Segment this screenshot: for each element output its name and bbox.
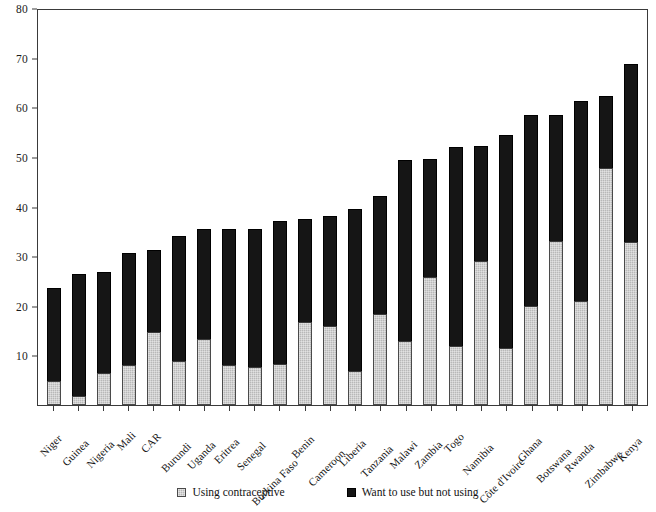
bar-segment-want-to-use-but-not-using[interactable] — [72, 274, 86, 396]
bar-segment-using-contraceptive[interactable] — [348, 371, 362, 405]
bar-segment-want-to-use-but-not-using[interactable] — [474, 146, 488, 261]
bar-slot-malawi[interactable] — [393, 10, 418, 405]
stacked-bar[interactable] — [624, 64, 638, 405]
bar-slot-kenya[interactable] — [619, 10, 644, 405]
chart-page: 1020304050607080 NigerGuineaNigeriaMaliC… — [0, 0, 656, 512]
stacked-bar[interactable] — [499, 135, 513, 405]
stacked-bar[interactable] — [423, 159, 437, 405]
bar-segment-want-to-use-but-not-using[interactable] — [97, 272, 111, 373]
bar-segment-using-contraceptive[interactable] — [172, 361, 186, 405]
stacked-bar[interactable] — [273, 221, 287, 405]
bar-slot-nigeria[interactable] — [91, 10, 116, 405]
stacked-bar[interactable] — [47, 288, 61, 405]
stacked-bar[interactable] — [373, 196, 387, 405]
bar-slot-tanzania[interactable] — [368, 10, 393, 405]
bar-segment-using-contraceptive[interactable] — [248, 367, 262, 405]
bar-slot-zambia[interactable] — [418, 10, 443, 405]
bar-segment-using-contraceptive[interactable] — [323, 326, 337, 405]
bar-segment-want-to-use-but-not-using[interactable] — [398, 160, 412, 341]
stacked-bar[interactable] — [599, 96, 613, 405]
bar-segment-want-to-use-but-not-using[interactable] — [47, 288, 61, 381]
bar-segment-using-contraceptive[interactable] — [97, 373, 111, 405]
bar-segment-want-to-use-but-not-using[interactable] — [348, 209, 362, 370]
bar-segment-using-contraceptive[interactable] — [373, 314, 387, 405]
bar-segment-using-contraceptive[interactable] — [624, 242, 638, 405]
bar-segment-want-to-use-but-not-using[interactable] — [624, 64, 638, 242]
bar-slot-botswana[interactable] — [544, 10, 569, 405]
stacked-bar[interactable] — [348, 209, 362, 405]
bar-segment-using-contraceptive[interactable] — [47, 381, 61, 405]
bar-slot-guinea[interactable] — [66, 10, 91, 405]
bar-slot-cameroon[interactable] — [317, 10, 342, 405]
bar-slot-eritrea[interactable] — [217, 10, 242, 405]
stacked-bar[interactable] — [72, 274, 86, 405]
bar-slot-burkina-faso[interactable] — [267, 10, 292, 405]
bar-segment-using-contraceptive[interactable] — [423, 277, 437, 405]
bar-segment-using-contraceptive[interactable] — [524, 306, 538, 405]
bar-segment-want-to-use-but-not-using[interactable] — [323, 216, 337, 325]
bar-segment-want-to-use-but-not-using[interactable] — [172, 236, 186, 361]
bar-segment-want-to-use-but-not-using[interactable] — [147, 250, 161, 331]
bar-slot-mali[interactable] — [116, 10, 141, 405]
stacked-bar[interactable] — [474, 146, 488, 405]
bar-slot-liberia[interactable] — [343, 10, 368, 405]
bar-segment-using-contraceptive[interactable] — [273, 364, 287, 405]
bar-segment-want-to-use-but-not-using[interactable] — [273, 221, 287, 364]
stacked-bar[interactable] — [398, 160, 412, 405]
stacked-bar[interactable] — [222, 229, 236, 405]
bar-segment-using-contraceptive[interactable] — [449, 346, 463, 405]
bar-segment-using-contraceptive[interactable] — [298, 322, 312, 405]
stacked-bar[interactable] — [549, 115, 563, 405]
bar-segment-want-to-use-but-not-using[interactable] — [197, 229, 211, 338]
stacked-bar[interactable] — [248, 229, 262, 405]
bar-segment-want-to-use-but-not-using[interactable] — [298, 219, 312, 321]
bar-segment-using-contraceptive[interactable] — [197, 339, 211, 405]
bar-segment-want-to-use-but-not-using[interactable] — [248, 229, 262, 367]
stacked-bar[interactable] — [323, 216, 337, 405]
bar-slot-rwanda[interactable] — [569, 10, 594, 405]
stacked-bar[interactable] — [574, 101, 588, 405]
bar-slot-benin[interactable] — [292, 10, 317, 405]
stacked-bar[interactable] — [97, 272, 111, 405]
bar-slot-senegal[interactable] — [242, 10, 267, 405]
bar-segment-using-contraceptive[interactable] — [499, 348, 513, 405]
bar-segment-want-to-use-but-not-using[interactable] — [423, 159, 437, 277]
bar-segment-want-to-use-but-not-using[interactable] — [122, 253, 136, 365]
bar-segment-want-to-use-but-not-using[interactable] — [574, 101, 588, 300]
bar-segment-want-to-use-but-not-using[interactable] — [373, 196, 387, 314]
x-label-benin: Benin — [289, 433, 316, 460]
bar-segment-using-contraceptive[interactable] — [599, 168, 613, 405]
stacked-bar[interactable] — [524, 115, 538, 405]
stacked-bar[interactable] — [449, 147, 463, 405]
bar-slot-uganda[interactable] — [192, 10, 217, 405]
stacked-bar[interactable] — [122, 253, 136, 405]
bar-segment-want-to-use-but-not-using[interactable] — [599, 96, 613, 167]
bar-segment-want-to-use-but-not-using[interactable] — [524, 115, 538, 306]
stacked-bar[interactable] — [147, 250, 161, 405]
bar-segment-using-contraceptive[interactable] — [72, 396, 86, 405]
bar-slot-namibia[interactable] — [468, 10, 493, 405]
stacked-bar[interactable] — [298, 219, 312, 405]
bar-segment-want-to-use-but-not-using[interactable] — [449, 147, 463, 346]
bar-segment-using-contraceptive[interactable] — [549, 241, 563, 405]
bar-segment-want-to-use-but-not-using[interactable] — [499, 135, 513, 348]
stacked-bar[interactable] — [172, 236, 186, 405]
bar-slot-c-te-d-ivoire[interactable] — [493, 10, 518, 405]
bar-slot-togo[interactable] — [443, 10, 468, 405]
bar-segment-want-to-use-but-not-using[interactable] — [222, 229, 236, 365]
bar-slot-zimbabwe[interactable] — [594, 10, 619, 405]
bar-slot-car[interactable] — [142, 10, 167, 405]
stacked-bar[interactable] — [197, 229, 211, 405]
y-tick-label-10: 10 — [16, 350, 28, 362]
bar-segment-using-contraceptive[interactable] — [474, 261, 488, 405]
bar-segment-using-contraceptive[interactable] — [398, 341, 412, 406]
bar-segment-using-contraceptive[interactable] — [574, 301, 588, 405]
bar-segment-want-to-use-but-not-using[interactable] — [549, 115, 563, 242]
bar-slot-niger[interactable] — [41, 10, 66, 405]
bar-segment-using-contraceptive[interactable] — [122, 365, 136, 405]
bar-segment-using-contraceptive[interactable] — [147, 332, 161, 405]
x-tick-tanzania — [380, 406, 381, 411]
bar-slot-ghana[interactable] — [518, 10, 543, 405]
bar-slot-burundi[interactable] — [167, 10, 192, 405]
bar-segment-using-contraceptive[interactable] — [222, 365, 236, 405]
